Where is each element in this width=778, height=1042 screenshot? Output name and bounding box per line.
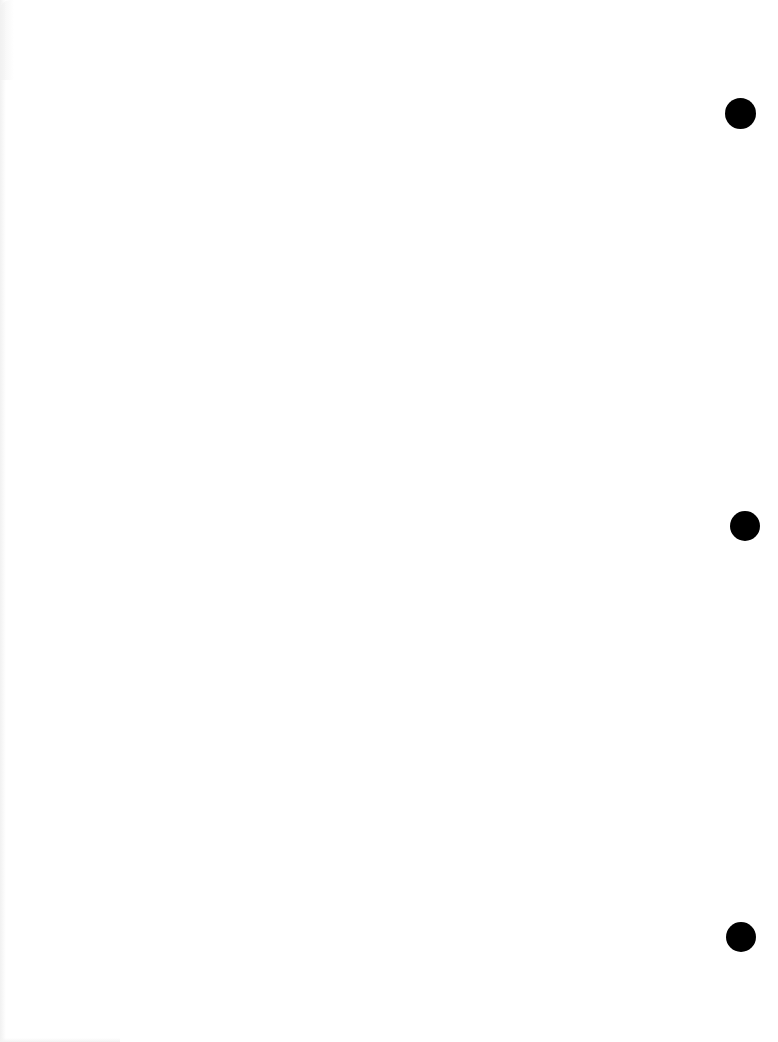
punch-hole-bottom (726, 922, 756, 952)
punch-hole-top (725, 98, 756, 129)
scan-edge-shadow-bottom (0, 1038, 120, 1042)
scan-edge-shadow-left (0, 0, 6, 1042)
scanned-page (0, 0, 778, 1042)
punch-hole-middle (730, 511, 760, 541)
